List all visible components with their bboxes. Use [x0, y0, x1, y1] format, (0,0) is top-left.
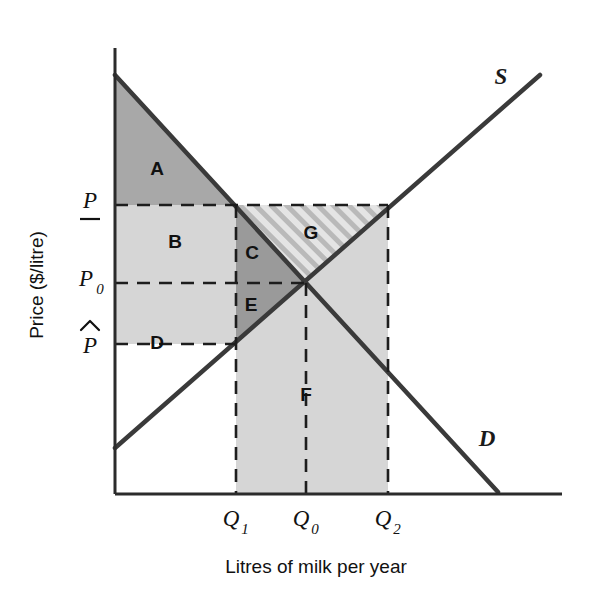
- svg-text:Q: Q: [293, 506, 310, 531]
- svg-text:Q: Q: [375, 506, 392, 531]
- svg-text:0: 0: [311, 521, 319, 537]
- quantity-tick-q-one: Q 1: [223, 506, 249, 537]
- region-D-shape: [115, 283, 236, 344]
- y-axis-title: Price ($/litre): [26, 231, 47, 339]
- quantity-tick-q-zero: Q 0: [293, 506, 320, 537]
- svg-text:2: 2: [393, 521, 401, 537]
- region-label-G: G: [304, 222, 319, 243]
- region-label-F: F: [300, 384, 312, 405]
- supply-curve-label: S: [495, 64, 508, 89]
- svg-text:Q: Q: [223, 506, 240, 531]
- figure-canvas: A B C D E F G S D P P 0 P Q 1 Q 0 Q 2 Pr…: [0, 0, 611, 609]
- quantity-tick-q-two: Q 2: [375, 506, 402, 537]
- price-tick-p-bar: P: [80, 188, 100, 219]
- x-axis-title: Litres of milk per year: [225, 556, 407, 577]
- svg-text:1: 1: [241, 521, 249, 537]
- p-hat-caret-mark: [81, 321, 99, 330]
- svg-text:P: P: [82, 333, 97, 358]
- region-label-A: A: [150, 158, 164, 179]
- demand-curve-label: D: [478, 426, 496, 451]
- region-label-B: B: [168, 231, 182, 252]
- price-tick-p-zero: P 0: [78, 266, 104, 297]
- price-tick-p-hat: P: [81, 321, 99, 358]
- region-label-E: E: [245, 294, 258, 315]
- region-label-D: D: [150, 332, 164, 353]
- svg-text:P: P: [78, 266, 93, 291]
- svg-text:0: 0: [96, 281, 104, 297]
- region-label-C: C: [245, 242, 259, 263]
- svg-text:P: P: [82, 188, 97, 213]
